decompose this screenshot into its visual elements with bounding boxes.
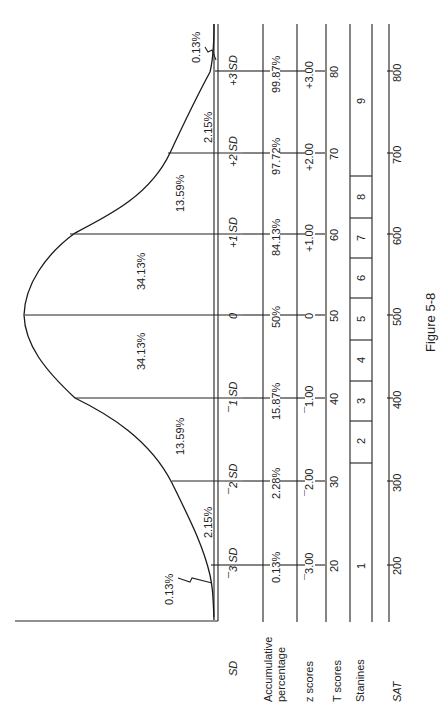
sd-label: +2 SD [227, 136, 239, 167]
sat-value: 300 [391, 474, 403, 492]
row-label-percentage: percentage [275, 647, 287, 702]
row-label-sd: SD [227, 661, 239, 676]
sat-value: 800 [391, 64, 403, 82]
stanine-value: 8 [355, 194, 367, 200]
t-score-value: 70 [328, 148, 340, 160]
accumulative-value: 15.87% [270, 382, 282, 420]
area-label: 34.13% [135, 252, 147, 290]
arrow-left-tail [178, 578, 212, 583]
sd-lines [25, 71, 243, 565]
sd-label: ¯2 SD [227, 463, 239, 495]
t-score-labels: 20 30 40 50 60 70 80 [328, 66, 340, 572]
area-label: 13.59% [174, 417, 186, 455]
figure-caption: Figure 5-8 [423, 293, 438, 352]
stanine-value: 6 [355, 275, 367, 281]
row-label-stanines: Stanines [354, 659, 366, 702]
sd-label: ¯1 SD [227, 381, 239, 413]
z-score-value: ¯3.00 [303, 553, 315, 581]
sat-value: 700 [391, 146, 403, 164]
sat-value: 400 [391, 391, 403, 409]
area-label: 0.13% [163, 574, 175, 605]
z-score-value: +1.00 [303, 224, 315, 252]
area-labels: 0.13% 2.15% 13.59% 34.13% 34.13% 13.59% … [135, 32, 214, 605]
accumulative-value: 99.87% [270, 55, 282, 93]
row-label-z-scores: z scores [303, 661, 315, 702]
z-score-value: +3.00 [303, 61, 315, 89]
stanine-value: 4 [355, 357, 367, 363]
area-label: 0.13% [190, 32, 202, 63]
sat-labels: 200 300 400 500 600 700 800 [391, 64, 403, 575]
t-score-value: 60 [328, 229, 340, 241]
row-label-sat: SAT [391, 680, 403, 702]
t-score-value: 50 [328, 310, 340, 322]
row-label-t-scores: T scores [331, 660, 343, 702]
accumulative-labels: 0.13% 2.28% 15.87% 50% 84.13% 97.72% 99.… [270, 55, 282, 583]
stanine-value: 1 [355, 563, 367, 569]
z-score-value: 0 [303, 313, 315, 319]
stanine-value: 9 [355, 98, 367, 104]
area-label: 2.15% [202, 507, 214, 538]
t-score-value: 40 [328, 393, 340, 405]
sat-value: 200 [391, 557, 403, 575]
accumulative-value: 84.13% [270, 218, 282, 256]
stanine-labels: 1 2 3 4 5 6 7 8 9 [355, 98, 367, 569]
accumulative-value: 50% [270, 306, 282, 328]
z-score-value: ¯1.00 [303, 386, 315, 414]
sd-label: 0 [227, 312, 239, 319]
z-score-labels: ¯3.00 ¯2.00 ¯1.00 0 +1.00 +2.00 +3.00 [303, 61, 315, 581]
sd-labels: ¯3 SD ¯2 SD ¯1 SD 0 +1 SD +2 SD +3 SD [227, 55, 239, 579]
accumulative-value: 2.28% [270, 468, 282, 499]
accumulative-value: 0.13% [270, 552, 282, 583]
t-score-value: 80 [328, 66, 340, 78]
area-label: 2.15% [202, 112, 214, 143]
sd-label: +3 SD [227, 55, 239, 86]
sd-label: ¯3 SD [227, 547, 239, 579]
stanine-value: 2 [355, 438, 367, 444]
stanine-value: 7 [355, 235, 367, 241]
sd-label: +1 SD [227, 217, 239, 248]
area-label: 13.59% [174, 174, 186, 212]
sat-value: 500 [391, 308, 403, 326]
row-labels: SD Accumulative percentage z scores T sc… [227, 637, 403, 702]
area-label: 34.13% [135, 332, 147, 370]
curve-frame [15, 24, 218, 621]
z-score-value: ¯2.00 [303, 469, 315, 497]
sat-value: 600 [391, 227, 403, 245]
z-score-value: +2.00 [303, 143, 315, 171]
t-score-value: 30 [328, 476, 340, 488]
row-label-accumulative: Accumulative [262, 637, 274, 702]
accumulative-value: 97.72% [270, 137, 282, 175]
stanine-value: 3 [355, 398, 367, 404]
stanine-value: 5 [355, 316, 367, 322]
normal-curve-figure: 0.13% 2.15% 13.59% 34.13% 34.13% 13.59% … [0, 0, 444, 722]
t-score-value: 20 [328, 560, 340, 572]
normal-curve [24, 24, 214, 620]
